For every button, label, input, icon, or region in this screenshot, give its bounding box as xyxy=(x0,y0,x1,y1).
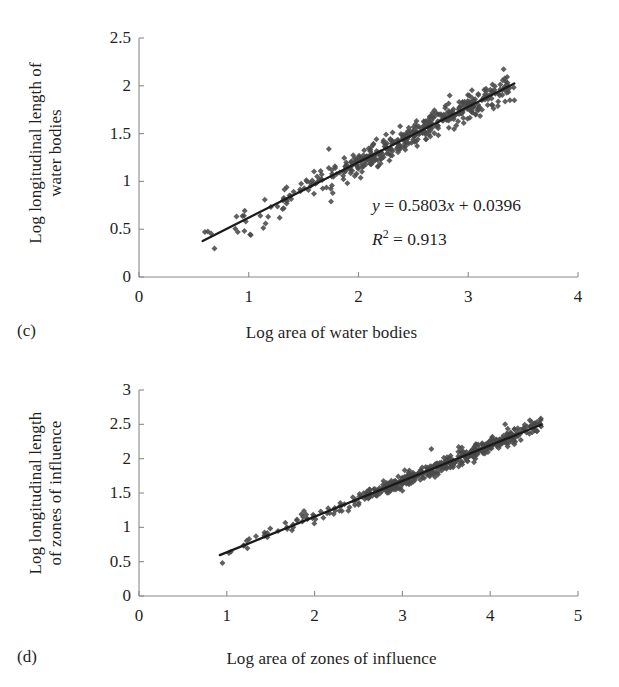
x-tick-label-d: 5 xyxy=(574,606,583,626)
y-tick-label-d: 3 xyxy=(79,380,131,400)
data-point xyxy=(501,66,507,72)
scatter-points-d xyxy=(219,416,544,566)
data-point xyxy=(262,197,268,203)
data-point xyxy=(311,169,317,175)
data-point xyxy=(326,146,332,152)
data-point xyxy=(446,125,452,131)
x-tick-label-c: 3 xyxy=(464,287,473,307)
regression-line-c xyxy=(203,83,515,241)
y-tick-label-d: 0 xyxy=(79,586,131,606)
r-squared-c-symbol: R xyxy=(372,229,383,249)
regression-equation-c: y = 0.5803x + 0.0396 xyxy=(372,195,521,216)
scatter-points-c xyxy=(202,66,517,251)
data-point xyxy=(265,214,271,220)
data-point xyxy=(469,87,475,93)
data-point xyxy=(298,181,304,187)
chart-panel-c: Log longitudinal length of water bodies … xyxy=(0,0,619,350)
data-point xyxy=(248,232,254,238)
data-point xyxy=(311,191,317,197)
data-point xyxy=(211,246,217,252)
y-tick-label-c: 1.5 xyxy=(79,124,131,144)
x-tick-label-c: 1 xyxy=(245,287,254,307)
data-point xyxy=(320,515,326,521)
data-point xyxy=(234,213,240,219)
data-point xyxy=(328,198,334,204)
panel-letter-d: (d) xyxy=(17,647,37,667)
data-point xyxy=(241,228,247,234)
r-squared-c-value: = 0.913 xyxy=(389,229,447,249)
x-axis-title-d: Log area of zones of influence xyxy=(22,649,619,669)
y-tick-label-d: 0.5 xyxy=(79,552,131,572)
data-point xyxy=(447,93,453,99)
data-point xyxy=(219,560,225,566)
y-tick-label-d: 2.5 xyxy=(79,414,131,434)
equation-c-y: y xyxy=(372,195,380,215)
figure-panels-c-d: Log longitudinal length of water bodies … xyxy=(0,0,619,687)
y-tick-label-c: 1 xyxy=(79,171,131,191)
data-point xyxy=(267,525,273,531)
data-point xyxy=(461,120,467,126)
data-point xyxy=(242,208,248,214)
regression-line-d xyxy=(220,425,541,555)
data-point xyxy=(423,136,429,142)
y-tick-label-d: 1.5 xyxy=(79,483,131,503)
data-point xyxy=(253,533,259,539)
panel-letter-c: (c) xyxy=(17,321,36,341)
x-tick-label-c: 4 xyxy=(574,287,583,307)
data-point xyxy=(502,98,508,104)
x-tick-label-d: 2 xyxy=(310,606,319,626)
data-point xyxy=(428,446,434,452)
data-point xyxy=(373,136,379,142)
data-point xyxy=(344,180,350,186)
x-tick-label-d: 0 xyxy=(135,606,144,626)
r-squared-c: R2 = 0.913 xyxy=(372,227,447,250)
y-tick-label-c: 2.5 xyxy=(79,28,131,48)
data-point xyxy=(358,175,364,181)
data-point xyxy=(277,215,283,221)
x-axis-title-c: Log area of water bodies xyxy=(22,323,619,343)
equation-c-intercept: + 0.0396 xyxy=(454,195,521,215)
y-tick-label-d: 1 xyxy=(79,517,131,537)
y-tick-label-c: 2 xyxy=(79,76,131,96)
x-tick-label-c: 2 xyxy=(354,287,363,307)
data-point xyxy=(383,132,389,138)
x-tick-label-d: 3 xyxy=(398,606,407,626)
data-point xyxy=(311,520,317,526)
data-point xyxy=(397,123,403,129)
y-tick-label-c: 0.5 xyxy=(79,219,131,239)
data-point xyxy=(390,129,396,135)
chart-panel-d: Log longitudinal length of zones of infl… xyxy=(0,350,619,687)
equation-c-slope: = 0.5803 xyxy=(380,195,447,215)
data-point xyxy=(386,158,392,164)
y-tick-label-d: 2 xyxy=(79,449,131,469)
data-point xyxy=(511,97,517,103)
x-tick-label-d: 4 xyxy=(486,606,495,626)
y-tick-label-c: 0 xyxy=(79,267,131,287)
data-point xyxy=(294,517,300,523)
x-tick-label-c: 0 xyxy=(135,287,144,307)
x-tick-label-d: 1 xyxy=(223,606,232,626)
